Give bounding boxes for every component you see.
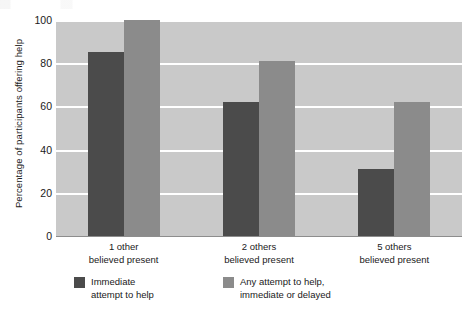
legend-label: Immediateattempt to help <box>91 276 154 301</box>
y-axis-tick-label: 60 <box>20 101 52 112</box>
bar[interactable] <box>223 102 259 236</box>
x-axis-tick-label: 2 othersbelieved present <box>191 241 326 266</box>
y-axis-tick-label: 20 <box>20 188 52 199</box>
bar[interactable] <box>394 102 430 236</box>
plot-area <box>56 20 462 236</box>
legend-color-swatch <box>74 277 85 288</box>
x-axis-tick-label-line2: believed present <box>56 254 191 267</box>
y-axis-tick-label: 0 <box>20 231 52 242</box>
x-axis-tick-label-line1: 5 others <box>327 241 462 254</box>
x-axis-tick-label-line2: believed present <box>191 254 326 267</box>
x-axis-baseline <box>56 236 462 237</box>
legend-label-line1: Any attempt to help, <box>240 276 331 289</box>
legend-label-line2: attempt to help <box>91 289 154 302</box>
chart-legend: Immediateattempt to helpAny attempt to h… <box>56 276 462 308</box>
bar-group <box>223 20 295 236</box>
legend-label-line1: Immediate <box>91 276 154 289</box>
x-axis-tick-label: 5 othersbelieved present <box>327 241 462 266</box>
x-axis-tick-labels: 1 otherbelieved present2 othersbelieved … <box>56 241 462 269</box>
bar[interactable] <box>259 61 295 236</box>
x-axis-tick-label-line1: 1 other <box>56 241 191 254</box>
bar-chart-figure: Percentage of participants offering help… <box>0 0 468 311</box>
legend-color-swatch <box>223 277 234 288</box>
x-axis-tick-label-line2: believed present <box>327 254 462 267</box>
bar-group <box>358 20 430 236</box>
legend-entry[interactable]: Any attempt to help,immediate or delayed <box>223 276 331 301</box>
legend-label: Any attempt to help,immediate or delayed <box>240 276 331 301</box>
legend-entry[interactable]: Immediateattempt to help <box>74 276 154 301</box>
x-axis-tick-label: 1 otherbelieved present <box>56 241 191 266</box>
y-axis-tick-label: 40 <box>20 145 52 156</box>
bar-group <box>88 20 160 236</box>
y-axis-tick-label: 80 <box>20 58 52 69</box>
scan-artifact <box>0 0 468 9</box>
bar[interactable] <box>124 20 160 236</box>
legend-label-line2: immediate or delayed <box>240 289 331 302</box>
x-axis-tick-label-line1: 2 others <box>191 241 326 254</box>
y-axis-tick-label: 100 <box>20 15 52 26</box>
bar[interactable] <box>88 52 124 236</box>
bar[interactable] <box>358 169 394 236</box>
y-axis-tick-labels: 020406080100 <box>20 20 52 236</box>
